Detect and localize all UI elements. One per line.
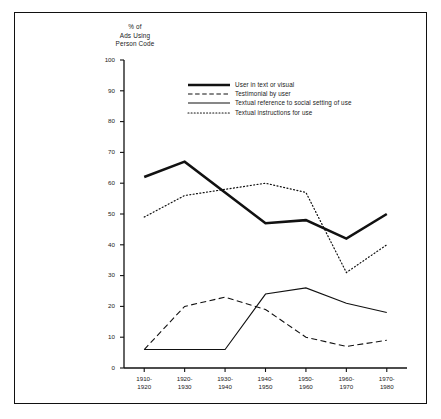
series-line [144,288,387,350]
y-axis-tick-label: 40 [95,242,115,248]
y-axis-tick-label: 90 [95,88,115,94]
x-axis-tick-label: 1930- 1940 [203,375,247,390]
series-line [144,297,387,349]
series-line [144,162,387,239]
figure-frame: % of Ads Using Person Code User in text … [14,12,427,404]
series-line [144,183,387,272]
y-axis-tick-label: 20 [95,303,115,309]
axis-lines [124,60,407,368]
y-axis-tick-label: 70 [95,149,115,155]
x-axis-tick-label: 1940- 1950 [244,375,288,390]
y-axis-tick-label: 100 [95,57,115,63]
y-axis-tick-label: 50 [95,211,115,217]
y-axis-tick-label: 80 [95,118,115,124]
y-axis-tick-label: 60 [95,180,115,186]
y-axis-tick-label: 0 [95,365,115,371]
chart-plot-area: % of Ads Using Person Code User in text … [15,13,428,405]
y-axis-tick-label: 10 [95,334,115,340]
data-series-layer [144,162,387,350]
y-axis-tick-label: 30 [95,272,115,278]
x-axis-tick-label: 1970- 1980 [365,375,409,390]
x-axis-tick-label: 1920- 1930 [163,375,207,390]
x-axis-tick-label: 1960- 1970 [324,375,368,390]
x-axis-tick-label: 1950- 1960 [284,375,328,390]
x-axis-tick-label: 1910- 1920 [122,375,166,390]
chart-canvas [15,13,428,405]
